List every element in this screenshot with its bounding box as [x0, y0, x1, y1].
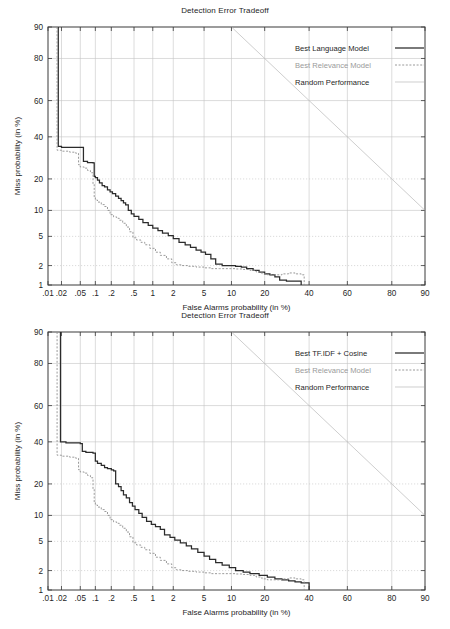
x-tick-label: 20 — [260, 594, 270, 603]
x-tick-label: .5 — [131, 289, 138, 298]
legend-label: Best TF.IDF + Cosine — [295, 349, 367, 358]
x-tick-label: 5 — [202, 594, 207, 603]
y-tick-label: 1 — [38, 281, 43, 290]
x-tick-label: .05 — [75, 594, 87, 603]
det-plot-top: .01.02.05.1.2.51251020406080901251020406… — [0, 0, 450, 314]
y-tick-label: 20 — [34, 175, 44, 184]
x-tick-label: 10 — [227, 594, 237, 603]
x-tick-label: 20 — [260, 289, 270, 298]
legend-label: Best Relevance Model — [295, 366, 371, 375]
chart-panel-top: Detection Error Tradeoff .01.02.05.1.2.5… — [0, 0, 450, 314]
x-tick-label: .5 — [131, 594, 138, 603]
det-figure: Detection Error Tradeoff .01.02.05.1.2.5… — [0, 0, 450, 629]
series-line — [231, 27, 425, 210]
y-axis-title: Miss probability (in %) — [13, 117, 22, 196]
legend-label: Random Performance — [295, 78, 369, 87]
x-tick-label: .2 — [108, 594, 115, 603]
y-axis-title: Miss probability (in %) — [13, 422, 22, 501]
y-tick-label: 5 — [38, 537, 43, 546]
x-tick-label: 10 — [227, 289, 237, 298]
det-plot-bottom: .01.02.05.1.2.51251020406080901251020406… — [0, 305, 450, 619]
x-tick-label: .2 — [108, 289, 115, 298]
x-tick-label: 1 — [150, 289, 155, 298]
y-tick-label: 90 — [34, 23, 44, 32]
x-axis-title: False Alarms probability (in %) — [182, 608, 290, 617]
legend-label: Random Performance — [295, 383, 369, 392]
x-tick-label: .02 — [56, 594, 68, 603]
legend: Best Language ModelBest Relevance ModelR… — [295, 44, 424, 87]
x-tick-label: .05 — [75, 289, 87, 298]
x-tick-label: .1 — [92, 289, 99, 298]
y-tick-label: 1 — [38, 586, 43, 595]
y-tick-label: 2 — [38, 262, 43, 271]
x-tick-label: 80 — [387, 594, 397, 603]
chart-panel-bottom: Detection Error Tradeoff .01.02.05.1.2.5… — [0, 305, 450, 619]
x-tick-label: .1 — [92, 594, 99, 603]
x-tick-label: 2 — [171, 594, 176, 603]
x-tick-label: 90 — [420, 289, 430, 298]
x-tick-label: .01 — [42, 594, 54, 603]
x-tick-label: 60 — [343, 289, 353, 298]
series-line — [57, 27, 304, 285]
x-tick-label: .02 — [56, 289, 68, 298]
series-line — [57, 332, 304, 590]
y-tick-label: 80 — [34, 54, 44, 63]
x-tick-label: 5 — [202, 289, 207, 298]
y-tick-label: 60 — [34, 402, 44, 411]
x-tick-label: 40 — [305, 594, 315, 603]
legend-label: Best Language Model — [295, 44, 369, 53]
y-tick-label: 80 — [34, 359, 44, 368]
y-tick-label: 40 — [34, 133, 44, 142]
x-tick-label: 40 — [305, 289, 315, 298]
x-tick-label: 80 — [387, 289, 397, 298]
x-tick-label: 2 — [171, 289, 176, 298]
y-tick-label: 5 — [38, 232, 43, 241]
y-tick-label: 20 — [34, 480, 44, 489]
x-tick-label: 90 — [420, 594, 430, 603]
legend-label: Best Relevance Model — [295, 61, 371, 70]
y-tick-label: 2 — [38, 567, 43, 576]
y-tick-label: 90 — [34, 328, 44, 337]
y-tick-label: 10 — [34, 511, 44, 520]
y-tick-label: 60 — [34, 97, 44, 106]
y-tick-label: 40 — [34, 438, 44, 447]
legend: Best TF.IDF + CosineBest Relevance Model… — [295, 349, 424, 392]
x-tick-label: 60 — [343, 594, 353, 603]
series-line — [231, 332, 425, 515]
x-tick-label: 1 — [150, 594, 155, 603]
y-tick-label: 10 — [34, 206, 44, 215]
x-tick-label: .01 — [42, 289, 54, 298]
